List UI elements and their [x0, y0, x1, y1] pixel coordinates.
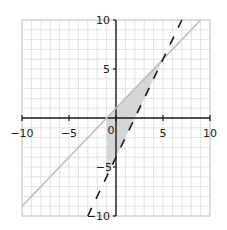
- x-tick-label-neg10: −10: [10, 127, 33, 140]
- chart: −10 −5 0 5 10 10 5 −5 −10: [0, 0, 227, 230]
- y-tick-label-neg5: −5: [96, 161, 112, 174]
- x-tick-label-5: 5: [160, 127, 167, 140]
- y-tick-label-neg10: −10: [87, 210, 110, 223]
- y-tick-label-10: 10: [96, 14, 110, 27]
- y-tick-label-5: 5: [103, 63, 110, 76]
- x-tick-label-0: 0: [108, 124, 115, 137]
- x-tick-label-neg5: −5: [61, 127, 77, 140]
- x-tick-label-10: 10: [203, 127, 217, 140]
- solid-line-y-eq-x-plus-1: [22, 20, 201, 206]
